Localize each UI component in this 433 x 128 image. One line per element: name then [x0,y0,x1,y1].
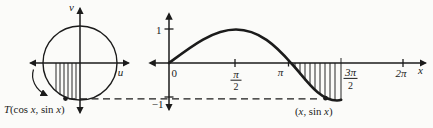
x-label-two-pi: 2π [395,67,407,79]
point-T-label: T(cos x, sin x) [4,103,65,116]
origin-label: 0 [172,67,178,79]
v-axis-label: v [69,1,74,13]
x-label-pi: π [278,66,284,78]
x-axis-label: x [417,64,423,76]
point-x-sinx-dot [323,96,328,101]
figure-canvas: v u T(cos x, sin x) 0 1 −1 π 2 π 3π 2 [0,0,433,128]
u-axis-label: u [118,66,124,78]
sine-graph-panel: 0 1 −1 π 2 π 3π 2 2π x (x, sin x) [150,14,426,118]
pi-half-denominator: 2 [234,81,239,92]
pi-half-numerator: π [233,68,239,80]
y-label-1: 1 [156,24,162,36]
sine-hatch-region [295,63,335,100]
point-T-dot [63,96,68,101]
x-label-three-pi-half: 3π 2 [344,66,358,91]
three-pi-half-denominator: 2 [348,80,353,91]
y-label-neg1: −1 [152,98,164,110]
x-label-pi-half: π 2 [231,68,242,92]
three-pi-half-numerator: 3π [344,66,357,78]
point-x-sinx-label: (x, sin x) [295,105,333,118]
